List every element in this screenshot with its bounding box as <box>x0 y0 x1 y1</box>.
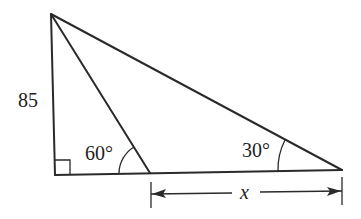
label-angle-30: 30° <box>242 139 270 161</box>
base-line <box>55 170 342 175</box>
triangle-diagram: 85 60° 30° x <box>0 0 361 219</box>
vertical-side <box>51 14 55 175</box>
right-angle-marker <box>55 160 70 175</box>
label-x: x <box>239 181 249 203</box>
angle-arc-30 <box>278 140 285 171</box>
label-side-85: 85 <box>18 89 38 111</box>
label-angle-60: 60° <box>85 142 113 164</box>
angle-arc-60 <box>119 147 134 173</box>
